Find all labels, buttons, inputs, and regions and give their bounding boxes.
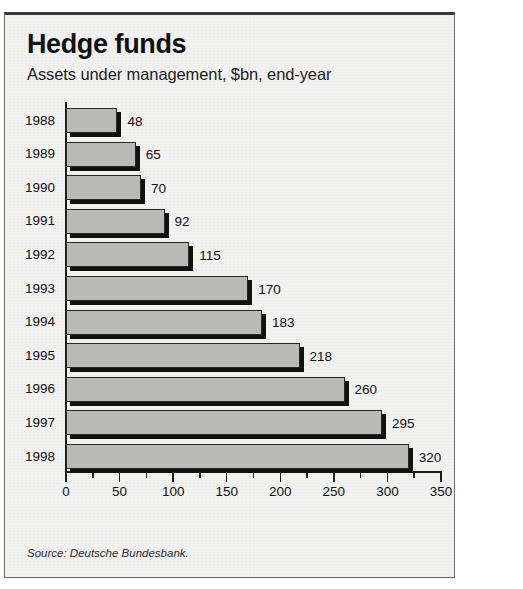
x-axis-major-tick (280, 473, 282, 482)
bar: 218 (66, 343, 300, 368)
x-axis-tick-label: 200 (269, 484, 292, 499)
x-axis-tick-label: 0 (62, 484, 70, 499)
bar-body (66, 142, 136, 167)
x-axis-minor-tick (253, 473, 255, 478)
x-axis-major-tick (440, 473, 442, 482)
source-note: Source: Deutsche Bundesbank. (27, 547, 189, 559)
bar-value-label: 260 (355, 382, 378, 397)
bar: 92 (66, 209, 165, 234)
x-axis-tick-label: 350 (430, 484, 453, 499)
x-axis-tick-label: 50 (112, 484, 127, 499)
y-axis-tick-label: 1995 (9, 348, 55, 363)
bar-body (66, 242, 189, 267)
bar: 170 (66, 276, 248, 301)
x-axis-tick-label: 100 (162, 484, 185, 499)
x-axis-minor-tick (146, 473, 148, 478)
bar-value-label: 48 (127, 113, 142, 128)
bar-value-label: 218 (310, 348, 333, 363)
x-axis-minor-tick (199, 473, 201, 478)
bar: 320 (66, 444, 409, 469)
y-axis-tick-label: 1988 (9, 113, 55, 128)
bar-body (66, 310, 262, 335)
y-axis-tick-label: 1991 (9, 213, 55, 228)
x-axis-major-tick (119, 473, 121, 482)
x-axis-minor-tick (306, 473, 308, 478)
bar-value-label: 320 (419, 449, 442, 464)
bar-body (66, 276, 248, 301)
x-axis-tick-label: 150 (215, 484, 238, 499)
bar-value-label: 70 (151, 180, 166, 195)
x-axis-major-tick (226, 473, 228, 482)
x-axis-major-tick (387, 473, 389, 482)
bar-body (66, 410, 382, 435)
bar-body (66, 175, 141, 200)
bar-body (66, 444, 409, 469)
bar-body (66, 209, 165, 234)
y-axis-tick-label: 1996 (9, 381, 55, 396)
plot-area: 1988481989651990701991921992115199317019… (5, 15, 455, 578)
chart-panel: Hedge funds Assets under management, $bn… (4, 12, 455, 578)
bar: 48 (66, 108, 117, 133)
y-axis-tick-label: 1994 (9, 314, 55, 329)
x-axis-minor-tick (92, 473, 94, 478)
bar-value-label: 115 (199, 247, 221, 262)
x-axis-tick-label: 300 (376, 484, 399, 499)
y-axis-tick-label: 1990 (9, 180, 55, 195)
y-axis-tick-label: 1998 (9, 449, 55, 464)
bar-value-label: 92 (175, 214, 190, 229)
bar-value-label: 295 (392, 415, 415, 430)
x-axis-major-tick (333, 473, 335, 482)
y-axis-tick-label: 1993 (9, 281, 55, 296)
bar: 115 (66, 242, 189, 267)
y-axis-tick-label: 1997 (9, 415, 55, 430)
bar-value-label: 170 (258, 281, 281, 296)
bar-value-label: 65 (146, 147, 161, 162)
y-axis-tick-label: 1989 (9, 146, 55, 161)
bar: 65 (66, 142, 136, 167)
x-axis-major-tick (172, 473, 174, 482)
bar-body (66, 108, 117, 133)
bar: 295 (66, 410, 382, 435)
bar-body (66, 377, 345, 402)
bar-body (66, 343, 300, 368)
bar: 183 (66, 310, 262, 335)
x-axis-minor-tick (413, 473, 415, 478)
bar: 70 (66, 175, 141, 200)
bar-value-label: 183 (272, 315, 295, 330)
x-axis-tick-label: 250 (323, 484, 346, 499)
bar: 260 (66, 377, 345, 402)
y-axis-tick-label: 1992 (9, 247, 55, 262)
x-axis-major-tick (65, 473, 67, 482)
x-axis-minor-tick (360, 473, 362, 478)
